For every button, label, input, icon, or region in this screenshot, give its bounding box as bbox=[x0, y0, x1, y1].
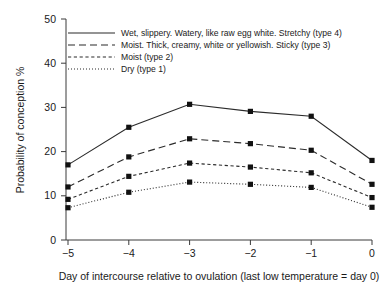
data-point bbox=[369, 158, 374, 163]
data-point bbox=[309, 114, 314, 119]
legend-label-type4: Wet, slippery. Watery, like raw egg whit… bbox=[121, 28, 342, 38]
series-group-1 bbox=[65, 136, 374, 189]
y-tick-label-0: 0 bbox=[50, 234, 56, 246]
data-point bbox=[65, 197, 70, 202]
data-point bbox=[187, 180, 192, 185]
data-point bbox=[65, 184, 70, 189]
data-point bbox=[65, 162, 70, 167]
chart-canvas: 0 10 20 30 40 50 −5 −4 −3 −2 −1 0 Day of… bbox=[0, 0, 386, 296]
legend-label-type2: Moist (type 2) bbox=[121, 52, 173, 62]
data-point bbox=[309, 170, 314, 175]
y-tick-label-50: 50 bbox=[44, 13, 56, 25]
legend-label-type1: Dry (type 1) bbox=[121, 64, 166, 74]
y-tick-label-10: 10 bbox=[44, 189, 56, 201]
series-path-3 bbox=[68, 182, 372, 208]
y-axis-title: Probability of conception % bbox=[14, 67, 26, 194]
data-point bbox=[248, 182, 253, 187]
y-tick-label-20: 20 bbox=[44, 145, 56, 157]
series-group-3 bbox=[65, 180, 374, 211]
data-point bbox=[248, 164, 253, 169]
x-tick-label-minus4: −4 bbox=[123, 247, 135, 259]
series-group-0 bbox=[65, 102, 374, 168]
data-point bbox=[126, 174, 131, 179]
data-point bbox=[248, 141, 253, 146]
x-tick-label-minus3: −3 bbox=[184, 247, 196, 259]
x-tick-label-0: 0 bbox=[369, 247, 375, 259]
data-point bbox=[369, 195, 374, 200]
data-point bbox=[126, 154, 131, 159]
legend-label-type3: Moist. Thick, creamy, white or yellowish… bbox=[121, 40, 330, 50]
data-point bbox=[369, 182, 374, 187]
y-tick-label-40: 40 bbox=[44, 57, 56, 69]
data-point bbox=[369, 205, 374, 210]
data-point bbox=[126, 190, 131, 195]
x-tick-label-minus2: −2 bbox=[244, 247, 256, 259]
x-axis-title: Day of intercourse relative to ovulation… bbox=[59, 270, 380, 282]
conception-probability-chart: 0 10 20 30 40 50 −5 −4 −3 −2 −1 0 Day of… bbox=[0, 0, 386, 296]
data-point bbox=[187, 160, 192, 165]
x-tick-label-minus5: −5 bbox=[62, 247, 74, 259]
x-tick-label-minus1: −1 bbox=[305, 247, 317, 259]
data-point bbox=[187, 102, 192, 107]
x-axis-ticks bbox=[68, 240, 372, 245]
data-point bbox=[248, 109, 253, 114]
chart-legend: Wet, slippery. Watery, like raw egg whit… bbox=[68, 28, 342, 74]
data-point bbox=[309, 185, 314, 190]
series-group-2 bbox=[65, 160, 374, 201]
series-path-2 bbox=[68, 163, 372, 199]
y-tick-label-30: 30 bbox=[44, 101, 56, 113]
data-point bbox=[309, 148, 314, 153]
series-path-0 bbox=[68, 104, 372, 165]
y-axis-ticks bbox=[61, 19, 66, 240]
series-path-1 bbox=[68, 139, 372, 187]
data-point bbox=[187, 136, 192, 141]
data-point bbox=[65, 205, 70, 210]
data-point bbox=[126, 125, 131, 130]
